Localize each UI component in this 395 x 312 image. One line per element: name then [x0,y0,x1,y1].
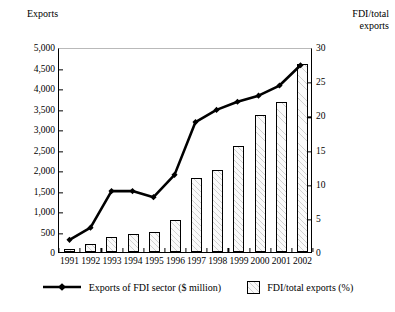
x-tick-label: 2000 [251,256,270,266]
legend-item-line: Exports of FDI sector ($ million) [42,282,221,293]
left-tick-label: 3,500 [34,106,55,116]
x-tick-label: 2002 [293,256,312,266]
chart-legend: Exports of FDI sector ($ million) FDI/to… [0,276,395,298]
x-tick-label: 1998 [208,256,227,266]
left-tick-label: 4,500 [34,65,55,75]
left-tick-label: 2,500 [34,147,55,157]
left-tick-label: 1,500 [34,188,55,198]
left-tick-label: 0 [50,249,55,259]
right-tick-label: 20 [316,113,326,123]
line-marker-icon [42,282,82,292]
left-tick-label: 2,000 [34,167,55,177]
right-tick-label: 30 [316,44,326,54]
line-series [59,49,311,252]
x-tick-label: 1992 [81,256,100,266]
x-tick-mark [312,248,313,252]
right-tick-label: 10 [316,181,326,191]
right-tick-label: 0 [316,249,321,259]
plot-area: 05001,0001,5002,0002,5003,0003,5004,0004… [58,48,312,253]
left-tick-label: 500 [41,229,55,239]
left-axis-title: Exports [27,8,58,20]
left-tick-label: 5,000 [34,44,55,54]
right-tick-label: 5 [316,215,321,225]
line-path [70,65,301,240]
right-tick-label: 15 [316,147,326,157]
left-tick-label: 4,000 [34,85,55,95]
x-tick-label: 1993 [102,256,121,266]
bar-swatch-icon [247,281,260,294]
legend-item-bar: FDI/total exports (%) [247,281,353,294]
left-tick-label: 3,000 [34,126,55,136]
x-tick-label: 1994 [124,256,143,266]
x-tick-label: 1997 [187,256,206,266]
x-tick-label: 2001 [272,256,291,266]
legend-bar-label: FDI/total exports (%) [267,282,353,293]
right-axis-title: FDI/total exports [352,8,389,32]
x-tick-label: 1999 [229,256,248,266]
right-tick-label: 25 [316,78,326,88]
left-tick-label: 1,000 [34,208,55,218]
x-tick-label: 1995 [145,256,164,266]
line-marker [129,188,135,194]
x-tick-label: 1996 [166,256,185,266]
chart-container: Exports FDI/total exports 05001,0001,500… [0,0,395,312]
legend-line-label: Exports of FDI sector ($ million) [89,282,221,293]
x-tick-label: 1991 [60,256,79,266]
